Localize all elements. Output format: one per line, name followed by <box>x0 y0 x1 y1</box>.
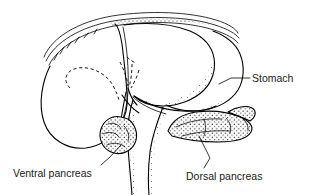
hidden-loop-dashed <box>66 68 119 100</box>
diaphragm-inner-arc <box>49 23 238 65</box>
anatomy-figure: Stomach Ventral pancreas Dorsal pancreas <box>0 0 312 195</box>
ventral-pancreas-stipple <box>96 112 142 158</box>
anatomy-diagram-canvas: Stomach Ventral pancreas Dorsal pancreas <box>0 0 312 195</box>
stomach-leader-line <box>219 78 250 84</box>
label-dorsal-pancreas: Dorsal pancreas <box>186 170 262 182</box>
diaphragm-group <box>44 13 239 65</box>
dorsal-pancreas-group <box>164 102 262 146</box>
label-stomach: Stomach <box>252 72 294 84</box>
liver-lobe-fissure <box>119 27 128 127</box>
label-ventral-pancreas: Ventral pancreas <box>13 167 92 179</box>
liver-right-lobe-outline <box>124 24 215 106</box>
hidden-branch-d-dashed <box>127 57 136 63</box>
stomach-greater-curvature <box>166 31 243 111</box>
ventral-pancreas-group <box>96 112 142 158</box>
stomach-group <box>130 31 243 116</box>
hidden-branch-b-dashed <box>129 64 132 87</box>
hidden-branch-c-dashed <box>131 70 139 88</box>
